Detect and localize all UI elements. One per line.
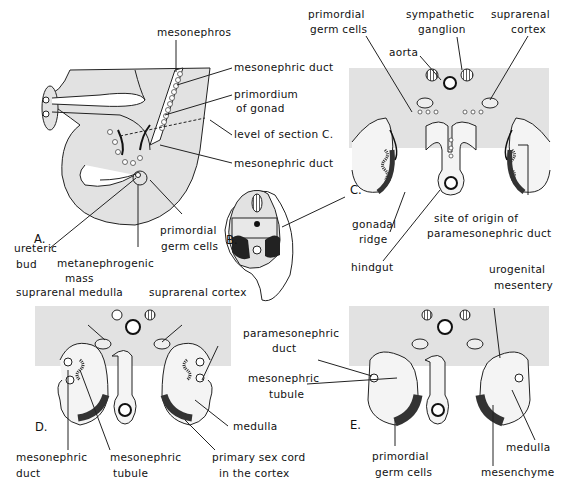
label-mesonephric-duct-d-line1: mesonephric <box>16 451 87 464</box>
label-suprarenal-medulla: suprarenal medulla <box>16 286 123 299</box>
label-hindgut: hindgut <box>351 261 393 274</box>
label-site-origin-line1: site of origin of <box>434 212 518 225</box>
label-medulla-d: medulla <box>233 420 277 433</box>
label-mesonephric-duct-d-line2: duct <box>16 467 40 480</box>
label-ureteric-line2: bud <box>16 258 37 271</box>
panel-d-drawing <box>35 306 231 450</box>
label-primordial-a-line1: primordial <box>160 224 217 237</box>
label-primordial-c-line1: primordial <box>308 8 365 21</box>
label-primordial-e-line2: germ cells <box>375 466 432 479</box>
label-mesenchyme: mesenchyme <box>481 466 555 479</box>
label-sex-cord-line1: primary sex cord <box>212 451 306 464</box>
label-sympathetic-line1: sympathetic <box>406 8 474 21</box>
label-gonadal-line1: gonadal <box>352 218 396 231</box>
label-metanephrogenic-line2: mass <box>65 272 94 285</box>
label-paramesonephric-line2: duct <box>272 342 296 355</box>
label-mesonephric-duct-top: mesonephric duct <box>234 61 333 74</box>
label-primordial-e-line1: primordial <box>372 450 429 463</box>
panel-label-c: C. <box>350 183 362 197</box>
label-site-origin-line2: paramesonephric duct <box>427 227 551 240</box>
label-urogenital-line1: urogenital <box>489 263 545 276</box>
label-aorta: aorta <box>389 46 418 59</box>
panel-b-drawing <box>225 190 345 300</box>
label-level-of-section: level of section C. <box>234 128 333 141</box>
label-metanephrogenic-line1: metanephrogenic <box>57 257 154 270</box>
label-gonadal-line2: ridge <box>359 233 388 246</box>
label-sympathetic-line2: ganglion <box>418 23 466 36</box>
label-primordial-a-line2: germ cells <box>161 240 218 253</box>
label-mesonephric-tubule-d-line1: mesonephric <box>110 451 181 464</box>
label-suprarenal-c-line1: suprarenal <box>490 8 550 21</box>
panel-label-e: E. <box>350 418 361 432</box>
label-primordium-line2: of gonad <box>236 102 285 115</box>
label-mesonephric-tubule-e-line1: mesonephric <box>248 372 319 385</box>
label-urogenital-line2: mesentery <box>494 279 553 292</box>
label-sex-cord-line2: in the cortex <box>219 467 290 480</box>
label-paramesonephric-line1: paramesonephric <box>243 327 339 340</box>
label-mesonephric-duct-bottom: mesonephric duct <box>234 157 333 170</box>
label-ureteric-line1: ureteric <box>14 242 57 255</box>
label-mesonephros: mesonephros <box>157 26 231 39</box>
label-medulla-e: medulla <box>506 441 550 454</box>
label-mesonephric-tubule-d-line2: tubule <box>113 467 148 480</box>
label-suprarenal-cortex-d: suprarenal cortex <box>149 286 247 299</box>
label-primordial-c-line2: germ cells <box>310 23 367 36</box>
label-suprarenal-c-line2: cortex <box>490 23 546 36</box>
label-primordium-line1: primordium <box>234 88 298 101</box>
panel-a-drawing <box>42 40 232 248</box>
panel-label-d: D. <box>35 420 48 434</box>
label-mesonephric-tubule-e-line2: tubule <box>269 388 304 401</box>
panel-label-b: B. <box>226 233 238 247</box>
